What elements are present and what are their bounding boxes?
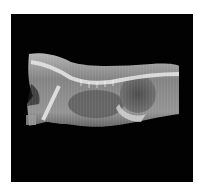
radiograph-image — [11, 14, 193, 182]
radiograph-frame — [11, 14, 193, 182]
